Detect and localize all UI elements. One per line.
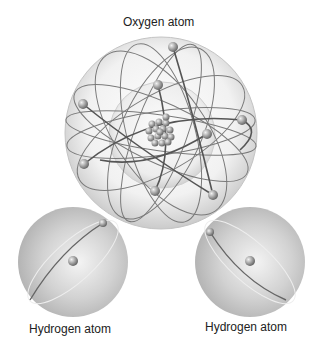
hydrogen-atom-left	[17, 207, 130, 317]
electron-icon	[237, 115, 247, 125]
electron-icon	[202, 129, 212, 139]
hydrogen-atom-right-label: Hydrogen atom	[205, 320, 287, 334]
electron-icon	[168, 42, 178, 52]
electron-icon	[79, 159, 89, 169]
atoms-illustration	[0, 0, 327, 346]
hydrogen-proton-icon	[245, 256, 255, 266]
oxygen-atom-label: Oxygen atom	[123, 15, 194, 29]
hydrogen-electron-icon	[99, 219, 107, 227]
electron-icon	[208, 190, 218, 200]
hydrogen-atom-right	[194, 207, 307, 317]
electron-icon	[153, 80, 163, 90]
hydrogen-atom-left-label: Hydrogen atom	[29, 322, 111, 336]
hydrogen-electron-icon	[206, 228, 214, 236]
hydrogen-proton-icon	[68, 256, 78, 266]
oxygen-atom	[61, 29, 262, 236]
water-molecule-diagram: Oxygen atom Hydrogen atom Hydrogen atom	[0, 0, 327, 346]
electron-icon	[150, 186, 160, 196]
electron-icon	[78, 99, 88, 109]
